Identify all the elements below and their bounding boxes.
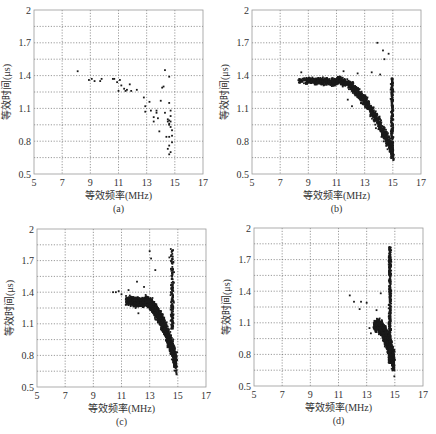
x-tick-labels: 57911131517 [250,177,427,188]
x-tick-label: 7 [278,177,283,188]
panel-caption: (b) [331,203,343,215]
grid-lines [34,10,203,174]
x-tick-label: 5 [250,177,255,188]
y-tick-label: 1.1 [22,318,35,329]
x-tick-label: 7 [60,177,65,188]
y-tick-label: 2 [26,5,31,16]
x-tick-label: 5 [32,177,37,188]
x-tick-label: 15 [173,390,183,401]
x-tick-label: 13 [360,177,370,188]
panel-caption: (a) [113,203,124,215]
panel-caption: (d) [333,415,345,427]
x-tick-label: 11 [117,390,127,401]
y-axis-label: 等效时间(μs) [220,279,233,335]
x-tick-label: 13 [362,389,372,400]
x-tick-label: 15 [390,389,400,400]
scatter-points [349,246,396,377]
y-tick-label: 1.7 [239,254,252,265]
y-axis-label: 等效时间(μs) [0,64,13,120]
y-tick-label: 0.5 [237,169,250,180]
y-tick-label: 0.8 [239,349,252,360]
x-tick-label: 17 [201,390,211,401]
x-tick-labels: 57911131517 [252,389,429,400]
x-tick-label: 7 [63,390,68,401]
y-tick-label: 0.5 [19,169,32,180]
scatter-points [77,69,173,155]
y-tick-label: 1.4 [237,70,250,81]
grid-lines [252,10,421,174]
x-tick-label: 11 [334,389,344,400]
panel-c: 579111315170.50.81.11.41.72等效频率(MHz)等效时间… [3,224,211,429]
y-tick-label: 1.4 [19,70,32,81]
x-tick-label: 17 [416,177,426,188]
y-tick-labels: 0.50.81.11.41.72 [239,223,252,392]
y-tick-label: 1.1 [239,317,252,328]
grid-lines [254,228,423,386]
figure-2x2-scatter-grid: 579111315170.50.81.11.41.72等效频率(MHz)等效时间… [0,0,436,434]
panel-a: 579111315170.50.81.11.41.72等效频率(MHz)等效时间… [0,5,208,216]
y-tick-label: 1.1 [237,103,250,114]
x-tick-label: 9 [308,389,313,400]
y-tick-label: 0.8 [19,136,32,147]
y-tick-label: 2 [246,223,251,234]
x-tick-label: 13 [145,390,155,401]
x-tick-label: 9 [306,177,311,188]
y-tick-label: 0.8 [22,350,35,361]
y-axis-label: 等效时间(μs) [218,64,231,120]
y-tick-label: 1.4 [22,287,35,298]
scatter-points [112,248,178,375]
y-tick-label: 1.7 [19,37,32,48]
x-tick-label: 11 [332,177,342,188]
x-tick-label: 11 [114,177,124,188]
x-tick-label: 9 [88,177,93,188]
x-tick-labels: 57911131517 [32,177,209,188]
x-axis-label: 等效频率(MHz) [305,401,372,414]
x-tick-label: 13 [142,177,152,188]
y-tick-label: 1.4 [239,286,252,297]
y-tick-label: 2 [244,5,249,16]
grid-lines [37,229,206,387]
y-tick-label: 0.5 [22,382,35,393]
x-tick-label: 15 [170,177,180,188]
x-tick-label: 5 [252,389,257,400]
x-tick-labels: 57911131517 [35,390,212,401]
y-tick-label: 2 [29,224,34,235]
panel-caption: (c) [116,416,127,428]
y-tick-label: 0.5 [239,381,252,392]
y-tick-label: 1.7 [237,37,250,48]
y-tick-label: 0.8 [237,136,250,147]
panel-d: 579111315170.50.81.11.41.72等效频率(MHz)等效时间… [220,223,428,428]
x-axis-label: 等效频率(MHz) [85,189,152,202]
y-tick-labels: 0.50.81.11.41.72 [19,5,32,180]
x-tick-label: 17 [198,177,208,188]
scatter-points [297,42,394,161]
x-axis-label: 等效频率(MHz) [303,189,370,202]
panel-b: 579111315170.50.81.11.41.72等效频率(MHz)等效时间… [218,5,426,216]
y-tick-labels: 0.50.81.11.41.72 [22,224,35,393]
x-tick-label: 15 [388,177,398,188]
y-tick-label: 1.7 [22,255,35,266]
x-tick-label: 7 [280,389,285,400]
y-tick-label: 1.1 [19,103,32,114]
x-tick-label: 9 [91,390,96,401]
y-tick-labels: 0.50.81.11.41.72 [237,5,250,180]
x-tick-label: 5 [35,390,40,401]
y-axis-label: 等效时间(μs) [3,280,16,336]
x-axis-label: 等效频率(MHz) [88,402,155,415]
x-tick-label: 17 [418,389,428,400]
